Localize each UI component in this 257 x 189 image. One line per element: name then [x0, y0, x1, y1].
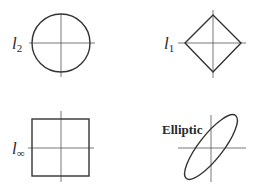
elliptic-panel: Elliptic	[162, 108, 246, 186]
l1-panel: l1	[164, 10, 246, 78]
l1-label: l1	[164, 34, 174, 54]
l2-label: l2	[12, 34, 22, 54]
elliptic-label: Elliptic	[162, 122, 203, 137]
linf-square	[32, 119, 89, 176]
linf-panel: l∞	[12, 111, 94, 182]
linf-label: l∞	[12, 139, 25, 159]
l2-panel: l2	[12, 14, 95, 77]
norm-unit-balls-diagram: l2 l1 l∞ Elliptic	[0, 0, 257, 189]
